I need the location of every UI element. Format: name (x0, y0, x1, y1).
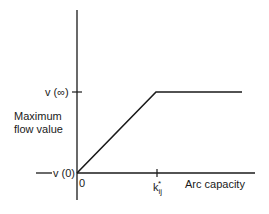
y-axis-label: Maximum flow value (14, 110, 63, 136)
kij-subscript: ij (159, 187, 163, 196)
v0-label: v (0) (53, 167, 75, 179)
y-axis-label-line1: Maximum (14, 110, 63, 123)
x-axis-label: Arc capacity (185, 178, 245, 190)
origin-label: 0 (79, 177, 85, 189)
vinf-label: v (∞) (45, 86, 69, 98)
max-flow-curve (77, 92, 242, 173)
kij-superscript: * (158, 179, 161, 188)
y-axis-label-line2: flow value (14, 123, 63, 136)
kij-label: kij* (153, 178, 161, 198)
